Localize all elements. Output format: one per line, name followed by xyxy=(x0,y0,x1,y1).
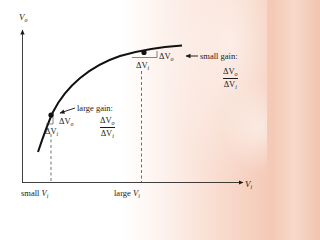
x-axis-label-sub: i xyxy=(251,184,253,190)
large-gain-label: large gain: xyxy=(77,104,113,113)
delta-vo-symbol: ΔV xyxy=(59,116,71,126)
large-gain-point xyxy=(48,112,53,117)
delta-vi-symbol: ΔV xyxy=(45,126,57,136)
delta-vi-sub: i xyxy=(57,131,59,137)
large-gain-delta-vi: ΔVi xyxy=(45,127,58,137)
small-gain-delta-vo: ΔVo xyxy=(159,52,174,62)
delta-vo-sub: o xyxy=(71,121,74,127)
ratio-denominator: ΔVi xyxy=(101,129,114,139)
large-gain-delta-vo: ΔVo xyxy=(59,117,74,127)
tick-small-sub: i xyxy=(47,193,49,199)
ratio-numerator: ΔVo xyxy=(100,116,115,126)
y-axis-label: Vo xyxy=(19,13,28,23)
tick-large-prefix: large xyxy=(114,188,133,198)
delta-vo-sub: o xyxy=(171,56,174,62)
tick-large-vi: large Vi xyxy=(114,189,140,199)
small-gain-ratio: ΔVo ΔVi xyxy=(223,67,238,90)
x-axis-label: Vi xyxy=(245,180,252,190)
tick-small-prefix: small xyxy=(21,188,42,198)
diagram-canvas xyxy=(0,0,267,206)
small-gain-point xyxy=(141,50,146,55)
tick-large-sub: i xyxy=(138,193,140,199)
ratio-numerator: ΔVo xyxy=(223,67,238,77)
tick-small-vi: small Vi xyxy=(21,189,48,199)
ratio-denominator: ΔVi xyxy=(224,80,237,90)
delta-vo-symbol: ΔV xyxy=(159,51,171,61)
delta-vi-sub: i xyxy=(148,65,150,71)
small-gain-label: small gain: xyxy=(200,52,238,61)
large-gain-ratio: ΔVo ΔVi xyxy=(100,116,115,139)
y-axis-label-sub: o xyxy=(25,17,28,23)
large-gain-arrow xyxy=(60,108,75,113)
small-gain-delta-vi: ΔVi xyxy=(136,61,149,71)
delta-vi-symbol: ΔV xyxy=(136,60,148,70)
